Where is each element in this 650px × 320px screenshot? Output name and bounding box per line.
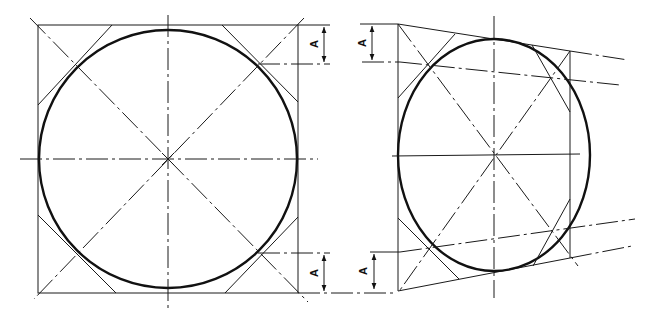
right-horizontal-centerline: [392, 154, 580, 156]
right-view: A A: [356, 16, 635, 298]
left-view: A A: [20, 15, 395, 308]
drawing-canvas: A A A A: [0, 0, 650, 320]
right-bottom-dim-label: A: [357, 267, 369, 275]
left-bottom-dim-label: A: [308, 269, 320, 277]
left-chamfer-br: [225, 217, 298, 293]
left-chamfer-bl: [38, 215, 116, 293]
right-chamfer-tr: [532, 45, 570, 112]
left-top-dim-label: A: [308, 40, 320, 48]
technical-drawing: A A A A: [0, 0, 650, 320]
right-top-dim-label: A: [356, 39, 368, 47]
right-trapezoid: [398, 24, 570, 291]
